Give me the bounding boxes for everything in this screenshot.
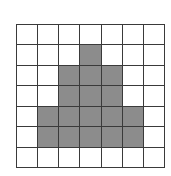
square-grid: [16, 24, 165, 168]
empty-cell: [80, 25, 101, 45]
empty-cell: [17, 127, 38, 147]
shaded-cell: [59, 107, 80, 127]
empty-cell: [38, 45, 59, 65]
empty-cell: [59, 148, 80, 168]
shaded-cell: [102, 127, 123, 147]
empty-cell: [17, 86, 38, 106]
shaded-cell: [102, 66, 123, 86]
empty-cell: [144, 25, 165, 45]
empty-cell: [80, 148, 101, 168]
empty-cell: [144, 148, 165, 168]
shaded-cell: [38, 107, 59, 127]
shaded-cell: [102, 86, 123, 106]
empty-cell: [144, 45, 165, 65]
shaded-cell: [80, 66, 101, 86]
empty-cell: [38, 148, 59, 168]
empty-cell: [38, 66, 59, 86]
shaded-cell: [59, 127, 80, 147]
shaded-cell: [102, 107, 123, 127]
shaded-cell: [123, 107, 144, 127]
shaded-cell: [80, 86, 101, 106]
shaded-cell: [38, 127, 59, 147]
empty-cell: [59, 45, 80, 65]
empty-cell: [17, 66, 38, 86]
empty-cell: [17, 45, 38, 65]
shaded-cell: [59, 66, 80, 86]
empty-cell: [102, 45, 123, 65]
shaded-cell: [80, 45, 101, 65]
empty-cell: [123, 148, 144, 168]
empty-cell: [144, 66, 165, 86]
empty-cell: [102, 25, 123, 45]
empty-cell: [144, 127, 165, 147]
shaded-cell: [80, 127, 101, 147]
empty-cell: [17, 107, 38, 127]
empty-cell: [123, 45, 144, 65]
empty-cell: [17, 148, 38, 168]
shaded-cell: [123, 127, 144, 147]
empty-cell: [123, 25, 144, 45]
empty-cell: [144, 86, 165, 106]
empty-cell: [38, 25, 59, 45]
empty-cell: [17, 25, 38, 45]
empty-cell: [144, 107, 165, 127]
shaded-cell: [59, 86, 80, 106]
empty-cell: [102, 148, 123, 168]
shaded-cell: [80, 107, 101, 127]
empty-cell: [59, 25, 80, 45]
empty-cell: [123, 86, 144, 106]
empty-cell: [38, 86, 59, 106]
empty-cell: [123, 66, 144, 86]
